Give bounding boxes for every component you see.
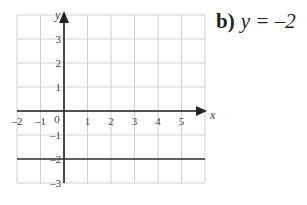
y-axis-arrow-icon <box>59 11 69 23</box>
tick-labels: –2–1012345–3–2–1123xy <box>11 8 217 189</box>
x-tick-label: 0 <box>54 113 60 125</box>
y-tick-label: –1 <box>49 129 61 141</box>
y-tick-label: 1 <box>56 81 62 93</box>
question-caption: b)y = –2 <box>216 9 296 34</box>
y-tick-label: 2 <box>56 57 62 69</box>
x-tick-label: 5 <box>179 115 185 127</box>
x-tick-label: 1 <box>85 115 91 127</box>
x-tick-label: 4 <box>155 115 161 127</box>
x-axis-label: x <box>209 108 216 122</box>
x-tick-label: 2 <box>108 115 114 127</box>
y-tick-label: –3 <box>49 177 62 189</box>
y-tick-label: –2 <box>49 153 61 165</box>
grid-lines <box>17 15 205 183</box>
y-axis-label: y <box>54 8 61 22</box>
x-tick-label: –2 <box>11 115 23 127</box>
equation-text: y = –2 <box>241 9 296 33</box>
axes <box>17 11 207 183</box>
x-tick-label: 3 <box>132 115 138 127</box>
question-label: b) <box>216 9 235 33</box>
x-tick-label: –1 <box>34 115 46 127</box>
y-tick-label: 3 <box>56 33 62 45</box>
